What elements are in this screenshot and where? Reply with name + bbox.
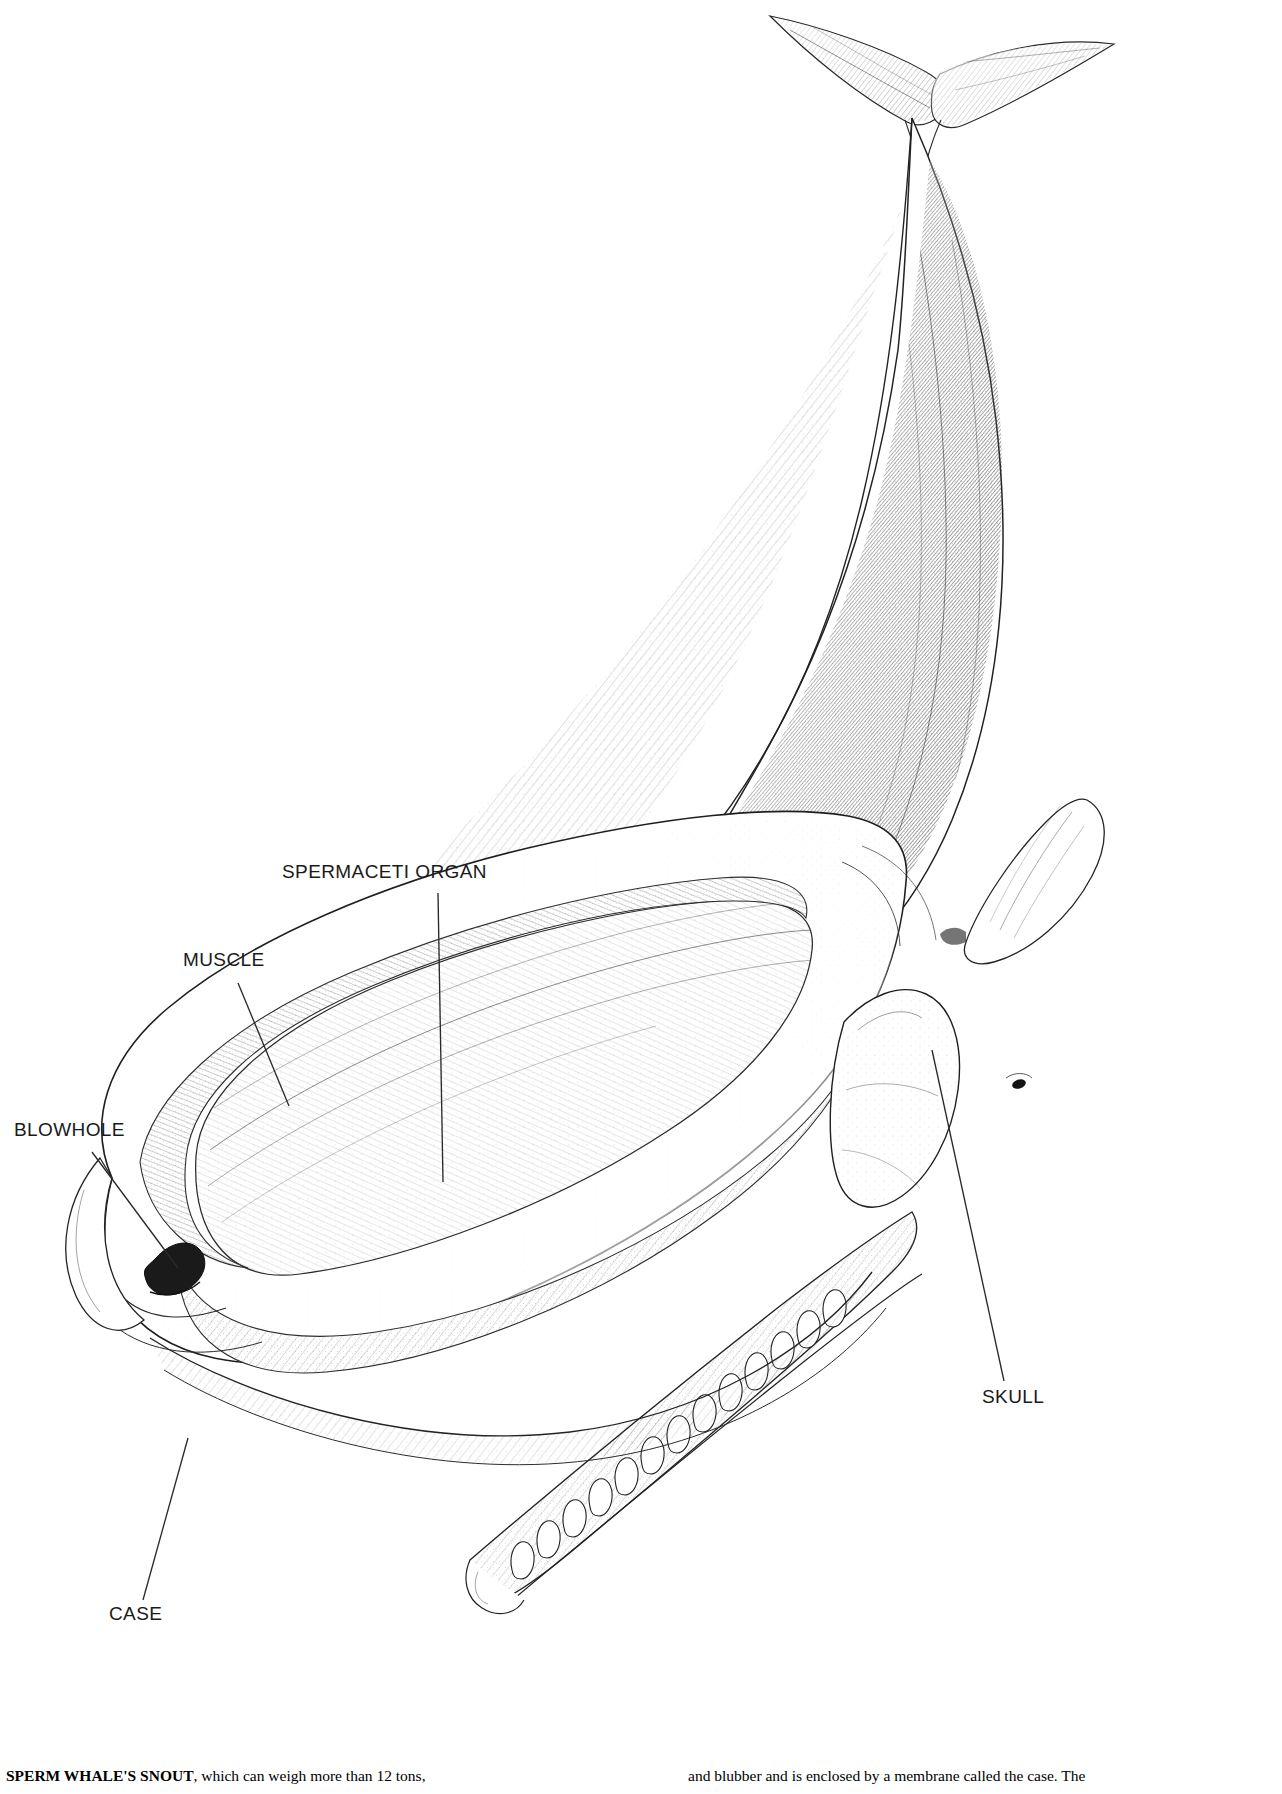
label-case: CASE: [109, 1604, 162, 1623]
caption-left-text: , which can weigh more than 12 tons,: [193, 1767, 425, 1784]
label-spermaceti-organ: SPERMACETI ORGAN: [282, 862, 487, 881]
figure-root: SPERMACETI ORGAN MUSCLE BLOWHOLE SKULL C…: [0, 0, 1282, 1794]
caption-right-text: and blubber and is enclosed by a membran…: [688, 1767, 1085, 1784]
caption-column-left: SPERM WHALE'S SNOUT, which can weigh mor…: [6, 1766, 598, 1785]
caption-lead-in: SPERM WHALE'S SNOUT: [6, 1767, 193, 1784]
figure-caption: SPERM WHALE'S SNOUT, which can weigh mor…: [0, 1766, 1282, 1794]
whale-anatomy-illustration: [0, 0, 1282, 1794]
caption-column-right: and blubber and is enclosed by a membran…: [688, 1766, 1280, 1785]
label-blowhole: BLOWHOLE: [14, 1120, 125, 1139]
label-skull: SKULL: [982, 1387, 1044, 1406]
label-muscle: MUSCLE: [183, 950, 265, 969]
